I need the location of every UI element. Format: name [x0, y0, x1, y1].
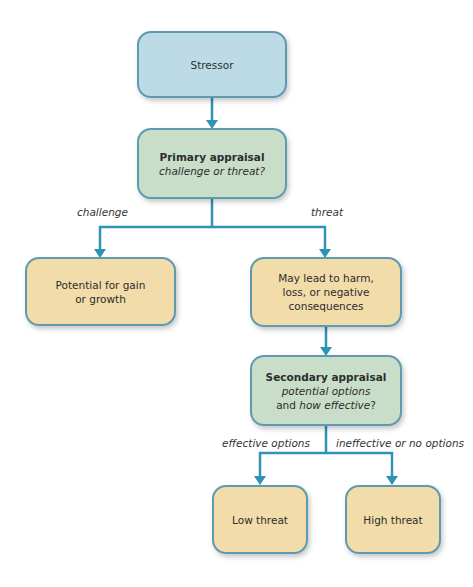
secondary-line-3-plain: and	[276, 399, 299, 411]
harm-node: May lead to harm, loss, or negative cons…	[250, 257, 402, 327]
primary-appraisal-node: Primary appraisal challenge or threat?	[137, 128, 287, 199]
high-threat-node: High threat	[345, 485, 441, 554]
harm-line-1: May lead to harm,	[278, 271, 374, 285]
stressor-label: Stressor	[190, 58, 233, 72]
gain-line-1: Potential for gain	[56, 278, 146, 292]
secondary-appraisal-title: Secondary appraisal	[266, 370, 387, 384]
secondary-appraisal-node: Secondary appraisal potential options an…	[250, 355, 402, 426]
primary-appraisal-subtitle: challenge or threat?	[159, 164, 265, 178]
edge-label-ineffective: ineffective or no options	[336, 437, 464, 449]
low-threat-label: Low threat	[232, 513, 288, 527]
secondary-line-3-end: ?	[370, 399, 376, 411]
low-threat-node: Low threat	[212, 485, 308, 554]
edge-label-challenge: challenge	[77, 206, 128, 218]
secondary-appraisal-line-3: and how effective?	[276, 398, 376, 412]
high-threat-label: High threat	[363, 513, 422, 527]
primary-appraisal-title: Primary appraisal	[159, 150, 264, 164]
stressor-node: Stressor	[137, 31, 287, 98]
gain-line-2: or growth	[75, 292, 126, 306]
gain-node: Potential for gain or growth	[25, 257, 176, 326]
harm-line-2: loss, or negative	[283, 285, 370, 299]
harm-line-3: consequences	[289, 299, 364, 313]
secondary-line-3-italic: how effective	[299, 399, 370, 411]
secondary-appraisal-line-2: potential options	[282, 384, 371, 398]
edge-label-effective: effective options	[222, 437, 310, 449]
edge-label-threat: threat	[311, 206, 343, 218]
